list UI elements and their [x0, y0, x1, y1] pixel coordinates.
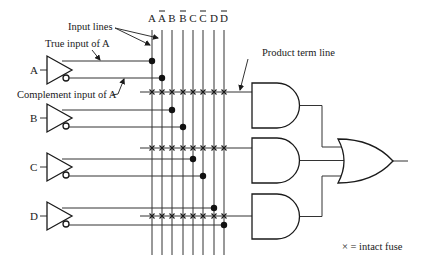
- column-label-c-bar: C: [199, 12, 206, 24]
- true-input-label: True input of A: [45, 38, 110, 49]
- column-label-a: A: [148, 12, 156, 24]
- arrow-icon: [240, 59, 248, 90]
- connection-dot: [190, 156, 196, 162]
- and-to-or-wire: [300, 106, 342, 148]
- input-label-d: D: [30, 210, 38, 222]
- input-label-b: B: [30, 112, 37, 124]
- or-gate-icon: [338, 139, 393, 183]
- column-label-b: B: [168, 12, 175, 24]
- connection-dot: [149, 58, 155, 64]
- column-label-d-bar: D: [220, 12, 228, 24]
- inverter-bubble-icon: [63, 75, 69, 81]
- and-gate-icon: [252, 194, 300, 239]
- input-label-c: C: [30, 161, 37, 173]
- legend-intact-fuse: × = intact fuse: [342, 241, 403, 252]
- and-to-or-wire: [300, 176, 342, 217]
- connection-dot: [180, 124, 186, 130]
- connection-dot: [159, 75, 165, 81]
- column-label-a-bar: A: [158, 12, 166, 24]
- complement-input-label: Complement input of A: [17, 89, 117, 100]
- arrow-icon: [115, 28, 150, 45]
- and-gate-icon: [252, 138, 299, 183]
- pla-diagram: Input lines True input of A Complement i…: [0, 0, 428, 266]
- arrow-icon: [92, 50, 100, 60]
- input-label-a: A: [30, 64, 38, 76]
- connection-dot: [169, 107, 175, 113]
- inverter-bubble-icon: [63, 221, 69, 227]
- column-label-c: C: [189, 12, 196, 24]
- connection-dot: [221, 222, 227, 228]
- connection-dot: [211, 205, 217, 211]
- product-term-line-label: Product term line: [262, 47, 335, 58]
- inverter-bubble-icon: [63, 123, 69, 129]
- column-label-d: D: [210, 12, 218, 24]
- input-lines-label: Input lines: [68, 21, 113, 32]
- and-gate-icon: [252, 83, 300, 128]
- inverter-bubble-icon: [63, 172, 69, 178]
- column-label-b-bar: B: [179, 12, 186, 24]
- connection-dot: [200, 173, 206, 179]
- pla-diagram-canvas: Input lines True input of A Complement i…: [0, 0, 428, 266]
